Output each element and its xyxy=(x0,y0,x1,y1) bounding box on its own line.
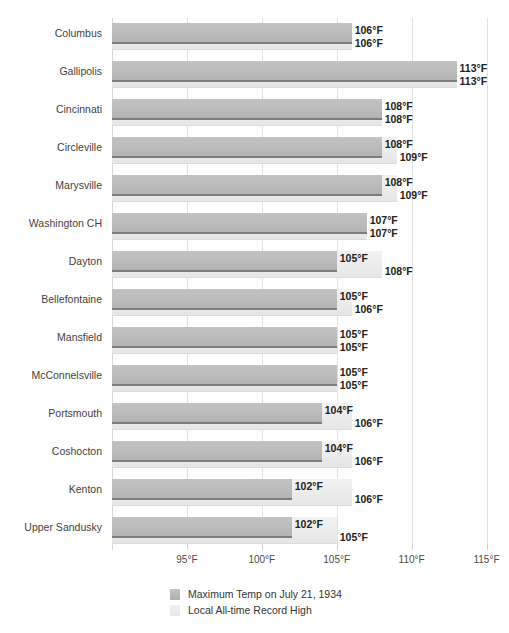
value-label-record-high: 108°F xyxy=(385,113,413,125)
x-tick-mark xyxy=(337,544,338,550)
x-tick-label: 105°F xyxy=(323,554,350,565)
plot-area: Columbus106°F106°FGallipolis113°F113°FCi… xyxy=(112,18,494,550)
value-label-record-high: 109°F xyxy=(400,151,428,163)
bar-max-temp xyxy=(112,403,322,424)
bar-max-temp xyxy=(112,175,382,196)
bar-max-temp xyxy=(112,23,352,44)
chart-row: Bellefontaine105°F106°F xyxy=(112,284,494,322)
legend-swatch-record-high xyxy=(170,605,180,616)
chart-row: Circleville108°F109°F xyxy=(112,132,494,170)
value-label-record-high: 105°F xyxy=(340,379,368,391)
category-label: Coshocton xyxy=(0,444,102,458)
bar-max-temp xyxy=(112,137,382,158)
x-tick-mark xyxy=(187,544,188,550)
value-label-record-high: 105°F xyxy=(340,341,368,353)
value-label-max-temp: 104°F xyxy=(325,404,353,416)
category-label: Columbus xyxy=(0,26,102,40)
value-label-max-temp: 108°F xyxy=(385,176,413,188)
bar-max-temp xyxy=(112,99,382,120)
bar-max-temp xyxy=(112,61,457,82)
value-label-max-temp: 113°F xyxy=(460,62,488,74)
chart-row: Marysville108°F109°F xyxy=(112,170,494,208)
temperature-bar-chart: Columbus106°F106°FGallipolis113°F113°FCi… xyxy=(0,0,509,633)
category-label: Dayton xyxy=(0,254,102,268)
value-label-record-high: 106°F xyxy=(355,417,383,429)
category-label: Mansfield xyxy=(0,330,102,344)
value-label-record-high: 106°F xyxy=(355,455,383,467)
category-label: Cincinnati xyxy=(0,102,102,116)
bar-max-temp xyxy=(112,517,292,538)
chart-legend: Maximum Temp on July 21, 1934 Local All-… xyxy=(170,586,342,618)
value-label-max-temp: 107°F xyxy=(370,214,398,226)
chart-row: McConnelsville105°F105°F xyxy=(112,360,494,398)
chart-row: Dayton105°F108°F xyxy=(112,246,494,284)
category-label: Gallipolis xyxy=(0,64,102,78)
x-tick-label: 95°F xyxy=(176,554,197,565)
value-label-record-high: 105°F xyxy=(340,531,368,543)
value-label-max-temp: 105°F xyxy=(340,290,368,302)
category-label: Marysville xyxy=(0,178,102,192)
bar-max-temp xyxy=(112,213,367,234)
bar-max-temp xyxy=(112,441,322,462)
value-label-max-temp: 105°F xyxy=(340,328,368,340)
chart-row: Kenton102°F106°F xyxy=(112,474,494,512)
x-tick-label: 110°F xyxy=(399,554,425,565)
category-label: Washington CH xyxy=(0,216,102,230)
category-label: Bellefontaine xyxy=(0,292,102,306)
value-label-record-high: 106°F xyxy=(355,303,383,315)
value-label-max-temp: 105°F xyxy=(340,252,368,264)
value-label-record-high: 113°F xyxy=(460,75,488,87)
bar-max-temp xyxy=(112,479,292,500)
value-label-max-temp: 104°F xyxy=(325,442,353,454)
chart-row: Upper Sandusky102°F105°F xyxy=(112,512,494,550)
legend-item-record-high: Local All-time Record High xyxy=(170,602,342,618)
x-tick-mark xyxy=(412,544,413,550)
chart-row: Mansfield105°F105°F xyxy=(112,322,494,360)
x-tick-mark xyxy=(262,544,263,550)
category-label: Portsmouth xyxy=(0,406,102,420)
value-label-max-temp: 102°F xyxy=(295,480,323,492)
bar-max-temp xyxy=(112,327,337,348)
value-label-max-temp: 102°F xyxy=(295,518,323,530)
x-tick-mark xyxy=(487,544,488,550)
bar-max-temp xyxy=(112,289,337,310)
bar-max-temp xyxy=(112,365,337,386)
chart-row: Gallipolis113°F113°F xyxy=(112,56,494,94)
chart-row: Washington CH107°F107°F xyxy=(112,208,494,246)
legend-label-max-temp: Maximum Temp on July 21, 1934 xyxy=(188,588,342,600)
category-label: Upper Sandusky xyxy=(0,520,102,534)
value-label-max-temp: 108°F xyxy=(385,138,413,150)
legend-swatch-max-temp xyxy=(170,589,180,600)
value-label-record-high: 106°F xyxy=(355,493,383,505)
category-label: Kenton xyxy=(0,482,102,496)
legend-label-record-high: Local All-time Record High xyxy=(188,604,312,616)
bar-max-temp xyxy=(112,251,337,272)
x-tick-label: 100°F xyxy=(248,554,275,565)
chart-row: Cincinnati108°F108°F xyxy=(112,94,494,132)
value-label-max-temp: 105°F xyxy=(340,366,368,378)
category-label: Circleville xyxy=(0,140,102,154)
value-label-record-high: 108°F xyxy=(385,265,413,277)
chart-row: Portsmouth104°F106°F xyxy=(112,398,494,436)
bar-rows: Columbus106°F106°FGallipolis113°F113°FCi… xyxy=(112,18,494,550)
x-tick-label: 115°F xyxy=(473,554,499,565)
legend-item-max-temp: Maximum Temp on July 21, 1934 xyxy=(170,586,342,602)
value-label-record-high: 107°F xyxy=(370,227,398,239)
value-label-max-temp: 106°F xyxy=(355,24,383,36)
category-label: McConnelsville xyxy=(0,368,102,382)
chart-row: Columbus106°F106°F xyxy=(112,18,494,56)
value-label-max-temp: 108°F xyxy=(385,100,413,112)
chart-row: Coshocton104°F106°F xyxy=(112,436,494,474)
value-label-record-high: 109°F xyxy=(400,189,428,201)
value-label-record-high: 106°F xyxy=(355,37,383,49)
x-axis: 95°F100°F105°F110°F115°F xyxy=(112,550,494,572)
